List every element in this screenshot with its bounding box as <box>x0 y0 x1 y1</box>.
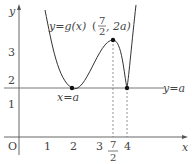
curve-g <box>45 5 136 89</box>
x-tick-2: 2 <box>70 140 77 153</box>
max-point <box>111 38 115 42</box>
line-label: y=a <box>162 82 185 95</box>
max-label-den: 2 <box>99 26 105 37</box>
graph-canvas: y x O 1 2 3 4 7 2 1 2 3 y=g(x) ( 7 2 , 2… <box>0 0 192 164</box>
intersection-point <box>125 86 129 90</box>
x-tick-1: 1 <box>44 140 51 153</box>
curve-label: y=g(x) <box>48 20 86 33</box>
x-tick-frac-den: 2 <box>110 152 116 163</box>
min-point <box>70 86 74 90</box>
max-label-num: 7 <box>99 15 105 26</box>
x-tick-3: 3 <box>96 140 103 153</box>
y-axis-arrow-icon <box>17 4 21 10</box>
y-tick-2: 2 <box>8 74 15 87</box>
y-tick-3: 3 <box>8 46 15 59</box>
origin-label: O <box>8 140 17 153</box>
x-tick-4: 4 <box>124 140 131 153</box>
max-label-open-paren: ( <box>92 20 96 33</box>
y-axis-label: y <box>8 5 16 18</box>
max-label-rest: , 2a) <box>106 20 131 33</box>
x-axis-label: x <box>182 141 189 154</box>
x-axis-arrow-icon <box>182 135 188 139</box>
y-tick-1: 1 <box>8 98 15 111</box>
min-label: x=a <box>57 91 79 104</box>
x-tick-frac-num: 7 <box>110 139 116 150</box>
